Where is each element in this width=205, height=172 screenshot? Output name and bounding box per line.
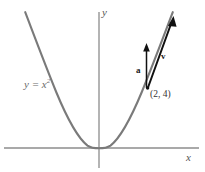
point-coordinate-label: (2, 4) [150,90,171,100]
point-marker [146,86,149,89]
velocity-vector-label: v [161,52,166,61]
velocity-vector-shaft [148,23,172,88]
curve-equation-label: y = x2 [24,78,50,90]
math-figure: y x y = x2 v a (2, 4) [0,0,205,172]
acceleration-vector-label: a [136,66,141,75]
curve-equation-base: y = x [24,78,47,90]
acceleration-vector-arrowhead [143,43,150,52]
y-axis-label: y [102,7,107,18]
curve-equation-exponent: 2 [47,77,51,85]
x-axis-label: x [186,152,191,163]
